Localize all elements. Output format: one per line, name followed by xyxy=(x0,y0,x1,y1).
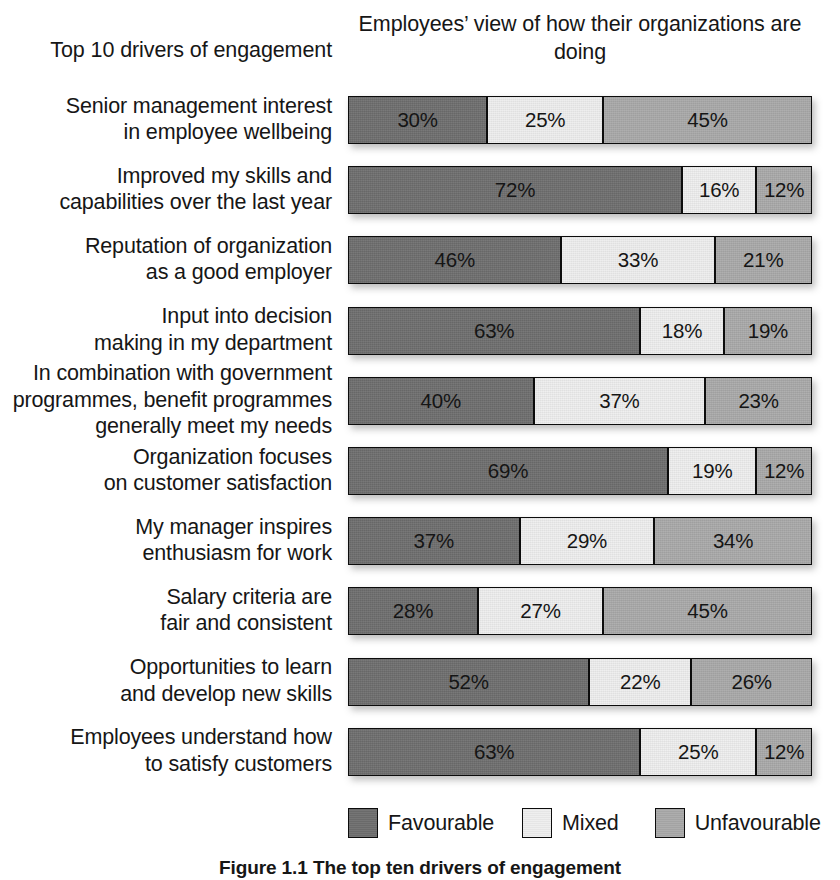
bar-segment-value: 63% xyxy=(474,319,514,343)
row-label-line: on customer satisfaction xyxy=(0,470,332,497)
bar-segment-value: 27% xyxy=(520,599,560,623)
stacked-bar: 40%37%23% xyxy=(348,377,812,425)
bar-segment-value: 37% xyxy=(599,389,639,413)
row-label-line: Senior management interest xyxy=(0,93,332,120)
bar-segment-mix: 27% xyxy=(478,587,603,635)
bar-segment-unf: 12% xyxy=(756,447,812,495)
bar-segment-value: 16% xyxy=(699,178,739,202)
bar-segment-fav: 37% xyxy=(348,517,520,565)
stacked-bar: 52%22%26% xyxy=(348,658,812,706)
bar-segment-fav: 40% xyxy=(348,377,534,425)
bar-segment-unf: 21% xyxy=(715,236,812,284)
row-label-line: programmes, benefit programmes xyxy=(0,387,332,414)
bar-segment-unf: 12% xyxy=(756,728,812,776)
bar-segment-value: 19% xyxy=(692,459,732,483)
legend-swatch-favourable-icon xyxy=(348,808,378,838)
bar-segment-mix: 25% xyxy=(487,96,603,144)
row-label: Reputation of organizationas a good empl… xyxy=(0,233,332,286)
legend-label-mixed: Mixed xyxy=(562,810,619,836)
bar-segment-fav: 28% xyxy=(348,587,478,635)
row-label-line: making in my department xyxy=(0,330,332,357)
bar-segment-unf: 45% xyxy=(603,96,812,144)
bar-segment-fav: 72% xyxy=(348,166,682,214)
row-label: Employees understand howto satisfy custo… xyxy=(0,724,332,777)
bar-segment-value: 12% xyxy=(764,178,804,202)
row-label: Organization focuseson customer satisfac… xyxy=(0,444,332,497)
legend-item-mixed: Mixed xyxy=(522,808,619,838)
stacked-bar: 72%16%12% xyxy=(348,166,812,214)
bar-segment-unf: 34% xyxy=(654,517,812,565)
row-label-line: Improved my skills and xyxy=(0,163,332,190)
bar-segment-value: 37% xyxy=(414,529,454,553)
legend-swatch-mixed-icon xyxy=(522,808,552,838)
bar-segment-value: 52% xyxy=(448,670,488,694)
row-label-line: Reputation of organization xyxy=(0,233,332,260)
bar-segment-value: 12% xyxy=(764,740,804,764)
bar-segment-mix: 25% xyxy=(640,728,756,776)
bar-segment-value: 33% xyxy=(618,248,658,272)
bar-segment-unf: 12% xyxy=(756,166,812,214)
row-label-line: Employees understand how xyxy=(0,724,332,751)
row-label-line: My manager inspires xyxy=(0,514,332,541)
row-label-line: to satisfy customers xyxy=(0,751,332,778)
bar-segment-value: 25% xyxy=(678,740,718,764)
bar-segment-value: 22% xyxy=(620,670,660,694)
bar-segment-value: 72% xyxy=(495,178,535,202)
bar-segment-value: 28% xyxy=(393,599,433,623)
bar-segment-value: 30% xyxy=(397,108,437,132)
bar-segment-mix: 22% xyxy=(589,658,691,706)
row-label-line: Salary criteria are xyxy=(0,584,332,611)
bar-segment-unf: 19% xyxy=(724,307,812,355)
legend-label-favourable: Favourable xyxy=(388,810,494,836)
stacked-bar: 63%18%19% xyxy=(348,307,812,355)
bar-segment-value: 69% xyxy=(488,459,528,483)
bar-segment-value: 45% xyxy=(687,108,727,132)
bar-segment-value: 26% xyxy=(731,670,771,694)
bar-segment-value: 34% xyxy=(713,529,753,553)
bar-segment-mix: 18% xyxy=(640,307,724,355)
bar-segment-value: 46% xyxy=(435,248,475,272)
bar-segment-value: 29% xyxy=(567,529,607,553)
row-label: In combination with governmentprogrammes… xyxy=(0,360,332,440)
row-label-line: Opportunities to learn xyxy=(0,654,332,681)
bar-segment-mix: 29% xyxy=(520,517,655,565)
row-label: Opportunities to learnand develop new sk… xyxy=(0,654,332,707)
row-label-line: fair and consistent xyxy=(0,610,332,637)
row-label-line: in employee wellbeing xyxy=(0,119,332,146)
bar-segment-fav: 63% xyxy=(348,728,640,776)
bar-segment-unf: 26% xyxy=(691,658,812,706)
bar-segment-value: 21% xyxy=(743,248,783,272)
bar-segment-fav: 63% xyxy=(348,307,640,355)
chart-legend: Favourable Mixed Unfavourable xyxy=(348,806,818,840)
bar-segment-value: 40% xyxy=(421,389,461,413)
row-label-line: capabilities over the last year xyxy=(0,189,332,216)
row-label-line: as a good employer xyxy=(0,259,332,286)
row-label: Input into decisionmaking in my departme… xyxy=(0,303,332,356)
legend-item-unfavourable: Unfavourable xyxy=(655,808,821,838)
row-label-line: generally meet my needs xyxy=(0,413,332,440)
legend-item-favourable: Favourable xyxy=(348,808,494,838)
row-label-line: In combination with government xyxy=(0,360,332,387)
legend-label-unfavourable: Unfavourable xyxy=(695,810,821,836)
bar-segment-mix: 16% xyxy=(682,166,756,214)
row-label: Senior management interestin employee we… xyxy=(0,93,332,146)
bar-segment-value: 63% xyxy=(474,740,514,764)
stacked-bar: 37%29%34% xyxy=(348,517,812,565)
row-label-line: enthusiasm for work xyxy=(0,540,332,567)
stacked-bar: 28%27%45% xyxy=(348,587,812,635)
row-label-line: and develop new skills xyxy=(0,681,332,708)
row-label: My manager inspiresenthusiasm for work xyxy=(0,514,332,567)
stacked-bar: 69%19%12% xyxy=(348,447,812,495)
legend-swatch-unfavourable-icon xyxy=(655,808,685,838)
bar-segment-fav: 52% xyxy=(348,658,589,706)
row-label-line: Organization focuses xyxy=(0,444,332,471)
bar-segment-unf: 23% xyxy=(705,377,812,425)
bar-segment-mix: 19% xyxy=(668,447,756,495)
bar-segment-value: 18% xyxy=(662,319,702,343)
bar-segment-mix: 37% xyxy=(534,377,706,425)
bar-segment-mix: 33% xyxy=(561,236,714,284)
bar-segment-value: 23% xyxy=(738,389,778,413)
bar-segment-fav: 69% xyxy=(348,447,668,495)
